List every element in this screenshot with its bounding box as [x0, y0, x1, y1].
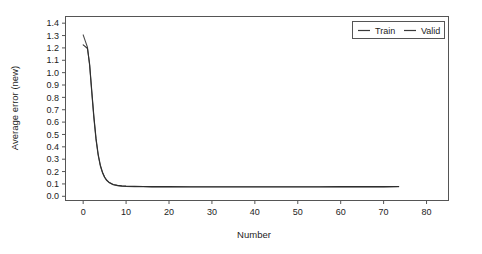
y-tick-label: 0.0 — [46, 191, 59, 201]
y-tick-label: 1.1 — [46, 55, 59, 65]
y-axis-title: Average error (new) — [9, 66, 20, 150]
y-tick-label: 0.8 — [46, 93, 59, 103]
y-tick-label: 0.2 — [46, 167, 59, 177]
chart-figure: 0.00.10.20.30.40.50.60.70.80.91.01.11.21… — [0, 0, 482, 254]
y-tick-label: 1.4 — [46, 18, 59, 28]
x-tick-label: 30 — [207, 207, 217, 217]
x-tick-label: 0 — [81, 207, 86, 217]
legend-label-train: Train — [375, 26, 395, 36]
y-tick-label: 0.4 — [46, 142, 59, 152]
y-tick-label: 0.9 — [46, 80, 59, 90]
y-tick-label: 0.7 — [46, 105, 59, 115]
legend-label-valid: Valid — [421, 26, 440, 36]
x-tick-label: 20 — [164, 207, 174, 217]
x-tick-label: 50 — [293, 207, 303, 217]
chart-legend: Train Valid — [353, 22, 445, 39]
x-tick-label: 40 — [250, 207, 260, 217]
x-tick-label: 80 — [422, 207, 432, 217]
line-chart: 0.00.10.20.30.40.50.60.70.80.91.01.11.21… — [0, 0, 482, 254]
x-axis-title: Number — [237, 229, 271, 240]
x-tick-label: 10 — [121, 207, 131, 217]
y-tick-label: 1.3 — [46, 31, 59, 41]
y-tick-label: 1.2 — [46, 43, 59, 53]
y-tick-label: 0.3 — [46, 154, 59, 164]
y-tick-label: 1.0 — [46, 68, 59, 78]
y-tick-label: 0.6 — [46, 117, 59, 127]
y-tick-label: 0.1 — [46, 179, 59, 189]
x-tick-label: 60 — [336, 207, 346, 217]
x-tick-label: 70 — [379, 207, 389, 217]
y-tick-label: 0.5 — [46, 130, 59, 140]
